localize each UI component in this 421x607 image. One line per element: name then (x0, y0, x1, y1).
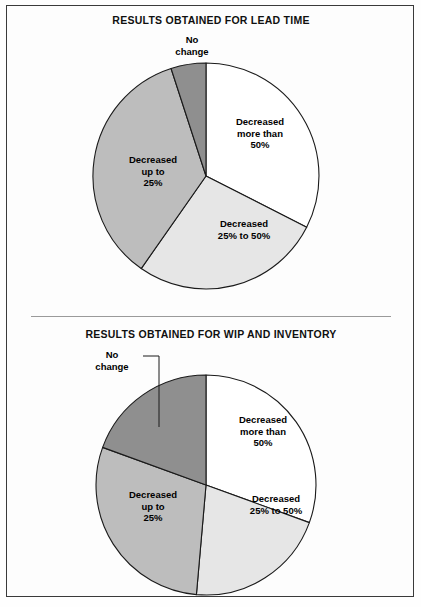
chart-panel-wip-inventory: RESULTS OBTAINED FOR WIP AND INVENTORY D… (7, 311, 415, 596)
pie-label-no-change: No change (162, 34, 222, 57)
pie-chart-lead-time: Decreased more than 50% Decreased 25% to… (7, 6, 415, 311)
pie-svg-wip-inventory (7, 311, 415, 596)
figure-border: RESULTS OBTAINED FOR LEAD TIME Decreased… (6, 5, 414, 597)
figure-page: RESULTS OBTAINED FOR LEAD TIME Decreased… (0, 0, 421, 607)
chart-panel-lead-time: RESULTS OBTAINED FOR LEAD TIME Decreased… (7, 6, 415, 311)
pie-label-no-change: No change (83, 349, 141, 372)
pie-chart-wip-inventory: Decreased more than 50% Decreased 25% to… (7, 311, 415, 596)
